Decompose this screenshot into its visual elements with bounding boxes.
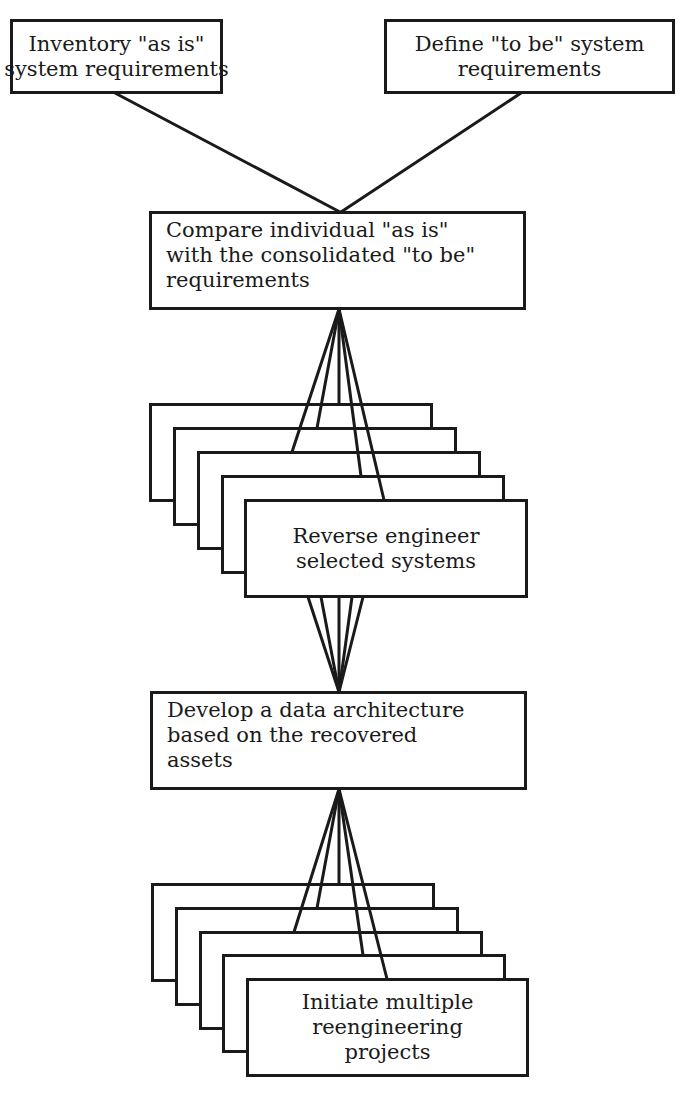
initiate-line-2: reengineering — [312, 1015, 463, 1040]
compare-line-3: requirements — [166, 268, 523, 293]
develop-line-3: assets — [167, 748, 524, 773]
reverse-line-2: selected systems — [296, 549, 476, 574]
reverse-engineer-box: Reverse engineer selected systems — [244, 499, 528, 598]
define-line-2: requirements — [458, 57, 602, 82]
compare-line-2: with the consolidated "to be" — [166, 243, 523, 268]
inventory-box: Inventory "as is" system requirements — [10, 19, 223, 94]
initiate-line-1: Initiate multiple — [302, 990, 474, 1015]
initiate-line-3: projects — [344, 1040, 430, 1065]
edge-inventory-compare — [115, 93, 340, 212]
define-box: Define "to be" system requirements — [384, 19, 675, 94]
inventory-line-1: Inventory "as is" — [28, 32, 204, 57]
edge-develop-initiate-3 — [294, 789, 339, 932]
develop-line-1: Develop a data architecture — [167, 698, 524, 723]
compare-box: Compare individual "as is" with the cons… — [149, 211, 526, 310]
edge-compare-reverse-3 — [292, 309, 339, 452]
reverse-line-1: Reverse engineer — [293, 524, 480, 549]
inventory-line-2: system requirements — [4, 57, 229, 82]
develop-box: Develop a data architecture based on the… — [150, 691, 527, 790]
compare-line-1: Compare individual "as is" — [166, 218, 523, 243]
define-line-1: Define "to be" system — [415, 32, 645, 57]
initiate-projects-box: Initiate multiple reengineering projects — [246, 978, 529, 1077]
edge-define-compare — [341, 93, 521, 212]
develop-line-2: based on the recovered — [167, 723, 524, 748]
